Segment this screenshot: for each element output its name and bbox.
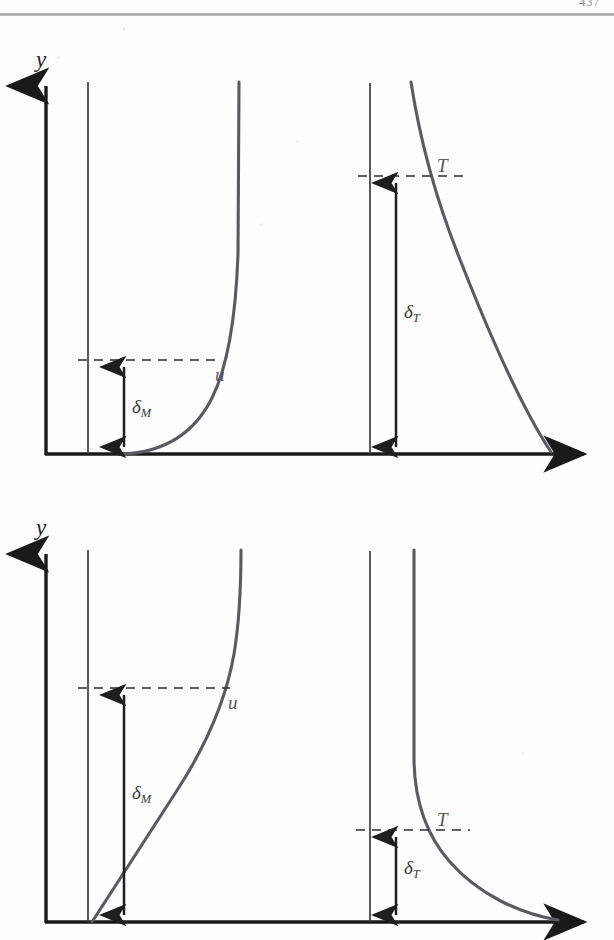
thermal-subscript: T <box>413 311 420 325</box>
temperature-curve-label-figure-one: T <box>437 156 448 175</box>
thermal-subscript: T <box>413 867 420 881</box>
y-axis-label-figure-two: y <box>36 516 46 539</box>
delta-glyph: δ <box>132 396 141 417</box>
scanned-page: 437 <box>0 0 614 940</box>
thermal-thickness-label-figure-one: δT <box>404 302 420 324</box>
axes-group-figure-one <box>45 86 584 455</box>
velocity-profile-curve <box>92 550 241 922</box>
temperature-panel-figure-one <box>358 82 551 454</box>
velocity-curve-label-figure-two: u <box>228 693 238 712</box>
temperature-profile-curve <box>414 550 558 920</box>
temperature-profile-curve <box>411 82 551 452</box>
figure-thick-momentum-thin-thermal: y u T δM δT <box>0 500 614 940</box>
velocity-panel-figure-one <box>78 82 239 454</box>
temperature-panel-figure-two <box>356 550 558 922</box>
momentum-thickness-label-figure-two: δM <box>132 783 151 805</box>
momentum-thickness-label-figure-one: δM <box>132 397 151 419</box>
velocity-panel-figure-two <box>78 550 241 922</box>
velocity-curve-label-figure-one: u <box>215 365 225 384</box>
delta-glyph: δ <box>132 782 141 803</box>
figure-thin-momentum-thick-thermal: y u T δM δT <box>0 0 614 480</box>
delta-glyph: δ <box>404 301 413 322</box>
thermal-thickness-label-figure-two: δT <box>404 858 420 880</box>
temperature-curve-label-figure-two: T <box>437 810 448 829</box>
momentum-subscript: M <box>141 792 151 806</box>
delta-glyph: δ <box>404 857 413 878</box>
y-axis-label-figure-one: y <box>36 48 46 71</box>
momentum-subscript: M <box>141 406 151 420</box>
